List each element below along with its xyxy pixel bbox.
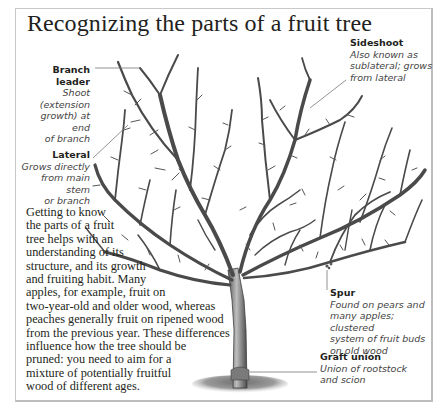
label-branch-leader: Branch leader Shoot (extension growth) a… xyxy=(20,64,90,145)
leader-line-sideshoot xyxy=(310,80,346,108)
label-branch-leader-description: Shoot (extension growth) at end of branc… xyxy=(20,87,90,145)
description-line: system of fruit buds xyxy=(330,333,434,345)
paragraph-line: from the previous year. These difference… xyxy=(26,327,230,340)
description-line: sublateral; grows xyxy=(350,60,434,72)
paragraph-line: structure, and its growth xyxy=(26,260,230,273)
paragraph-line: peaches generally fruit on ripened wood xyxy=(26,313,230,326)
leader-line-lateral xyxy=(93,125,128,158)
label-lateral-heading: Lateral xyxy=(20,149,90,161)
description-line: many apples; clustered xyxy=(330,310,434,333)
description-line: Union of rootstock xyxy=(320,363,430,375)
paragraph-line: two-year-old and older wood, whereas xyxy=(26,300,230,313)
label-graft-union-description: Union of rootstock and scion xyxy=(320,363,430,386)
paragraph-line: understanding of its xyxy=(26,246,230,259)
label-lateral-description: Grows directly from main stem or branch xyxy=(20,161,90,207)
paragraph-line: mixture of potentially fruitful xyxy=(26,367,230,380)
label-sideshoot: Sideshoot Also known as sublateral; grow… xyxy=(350,37,434,83)
label-graft-union-heading: Graft union xyxy=(320,351,430,363)
label-spur-heading: Spur xyxy=(330,287,434,299)
paragraph-line: tree helps with an xyxy=(26,233,230,246)
description-line: Shoot (extension xyxy=(20,87,90,110)
graft-union-mark xyxy=(231,367,249,380)
description-line: from lateral xyxy=(350,72,434,84)
label-spur-description: Found on pears and many apples; clustere… xyxy=(330,299,434,357)
label-sideshoot-heading: Sideshoot xyxy=(350,37,434,49)
description-line: and scion xyxy=(320,374,430,386)
paragraph-line: the parts of a fruit xyxy=(26,219,230,232)
description-line: Grows directly xyxy=(20,161,90,173)
paragraph-line: influence how the tree should be xyxy=(26,340,230,353)
paragraph-line: and fruiting habit. Many xyxy=(26,273,230,286)
label-graft-union: Graft union Union of rootstock and scion xyxy=(320,351,430,386)
description-line: growth) at end xyxy=(20,110,90,133)
label-lateral: Lateral Grows directly from main stem or… xyxy=(20,149,90,207)
description-line: from main stem xyxy=(20,172,90,195)
description-line: Also known as xyxy=(350,49,434,61)
paragraph-line: pruned: you need to aim for a xyxy=(26,353,230,366)
label-spur: Spur Found on pears and many apples; clu… xyxy=(330,287,434,356)
paragraph-line: Getting to know xyxy=(26,206,230,219)
label-sideshoot-description: Also known as sublateral; grows from lat… xyxy=(350,49,434,84)
paragraph-line: wood of different ages. xyxy=(26,380,230,393)
description-line: Found on pears and xyxy=(330,299,434,311)
intro-paragraph: Getting to know the parts of a fruit tre… xyxy=(26,206,230,394)
description-line: of branch xyxy=(20,133,90,145)
label-branch-leader-heading: Branch leader xyxy=(20,64,90,87)
paragraph-line: apples, for example, fruit on xyxy=(26,286,230,299)
